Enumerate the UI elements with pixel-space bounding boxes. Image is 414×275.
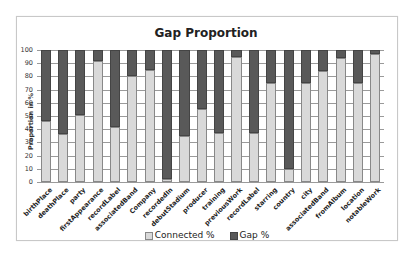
gridline: [37, 76, 384, 77]
stacked-bar: [318, 50, 328, 182]
y-tick-label: 50: [15, 112, 33, 120]
bar-segment-connected: [214, 133, 224, 182]
bar-segment-connected: [127, 76, 137, 182]
bar-segment-connected: [301, 83, 311, 182]
bar-segment-connected: [41, 121, 51, 182]
stacked-bar: [58, 50, 68, 182]
stacked-bar: [75, 50, 85, 182]
y-tick-label: 90: [15, 59, 33, 67]
y-tick-label: 60: [15, 99, 33, 107]
legend-label-gap: Gap %: [240, 230, 270, 240]
bar-segment-gap: [93, 50, 103, 61]
bar-segment-gap: [284, 50, 294, 169]
bar-segment-connected: [162, 179, 172, 182]
bar-segment-connected: [336, 58, 346, 182]
stacked-bar: [179, 50, 189, 182]
bar-segment-connected: [370, 54, 380, 182]
bar-segment-connected: [284, 169, 294, 182]
bar-segment-gap: [197, 50, 207, 109]
gridline: [37, 156, 384, 157]
stacked-bar: [127, 50, 137, 182]
stacked-bar: [41, 50, 51, 182]
gridline: [37, 63, 384, 64]
y-tick-label: 80: [15, 72, 33, 80]
stacked-bar: [214, 50, 224, 182]
bar-segment-connected: [179, 136, 189, 182]
bar-segment-gap: [127, 50, 137, 76]
bar-segment-gap: [249, 50, 259, 133]
bar-segment-connected: [353, 83, 363, 182]
gridline: [37, 169, 384, 170]
stacked-bar: [284, 50, 294, 182]
gridline: [37, 116, 384, 117]
bar-segment-connected: [249, 133, 259, 182]
gridline: [37, 182, 384, 183]
y-tick-label: 0: [15, 178, 33, 186]
legend-swatch-connected: [145, 232, 153, 240]
stacked-bar: [370, 50, 380, 182]
bar-segment-gap: [145, 50, 155, 70]
bar-segment-gap: [110, 50, 120, 127]
bar-segment-connected: [266, 83, 276, 182]
chart-title: Gap Proportion: [16, 26, 396, 40]
stacked-bar: [266, 50, 276, 182]
bar-segment-connected: [318, 71, 328, 182]
y-tick-label: 10: [15, 165, 33, 173]
stacked-bar: [162, 50, 172, 182]
legend-swatch-gap: [230, 232, 238, 240]
gridline: [37, 90, 384, 91]
bar-segment-connected: [231, 57, 241, 182]
legend-item-gap: Gap %: [230, 230, 270, 240]
bar-segment-connected: [93, 61, 103, 182]
y-tick-label: 30: [15, 138, 33, 146]
bar-segment-connected: [58, 134, 68, 182]
bar-segment-gap: [231, 50, 241, 57]
bar-segment-gap: [75, 50, 85, 115]
stacked-bar: [197, 50, 207, 182]
bar-segment-gap: [179, 50, 189, 136]
bar-segment-gap: [41, 50, 51, 121]
gridline: [37, 103, 384, 104]
y-tick-label: 40: [15, 125, 33, 133]
gridline: [37, 129, 384, 130]
bar-segment-connected: [75, 115, 85, 182]
bar-segment-connected: [110, 127, 120, 182]
plot-area: Proportion in % 0102030405060708090100: [37, 50, 384, 182]
gridline: [37, 50, 384, 51]
bar-segment-gap: [336, 50, 346, 58]
legend: Connected % Gap %: [0, 230, 414, 240]
stacked-bar: [336, 50, 346, 182]
legend-item-connected: Connected %: [145, 230, 215, 240]
bar-segment-gap: [214, 50, 224, 133]
y-tick-label: 70: [15, 86, 33, 94]
bar-segment-gap: [318, 50, 328, 71]
bar-segment-connected: [145, 70, 155, 182]
bar-segment-gap: [301, 50, 311, 83]
stacked-bar: [93, 50, 103, 182]
bar-segment-gap: [266, 50, 276, 83]
bar-segment-gap: [353, 50, 363, 83]
bar-segment-connected: [197, 109, 207, 182]
legend-label-connected: Connected %: [155, 230, 215, 240]
gridline: [37, 142, 384, 143]
bar-segment-gap: [58, 50, 68, 134]
stacked-bar: [231, 50, 241, 182]
y-tick-label: 20: [15, 152, 33, 160]
stacked-bar: [249, 50, 259, 182]
stacked-bar: [110, 50, 120, 182]
stacked-bar: [353, 50, 363, 182]
y-tick-label: 100: [15, 46, 33, 54]
bar-segment-gap: [162, 50, 172, 179]
stacked-bar: [301, 50, 311, 182]
stacked-bar: [145, 50, 155, 182]
